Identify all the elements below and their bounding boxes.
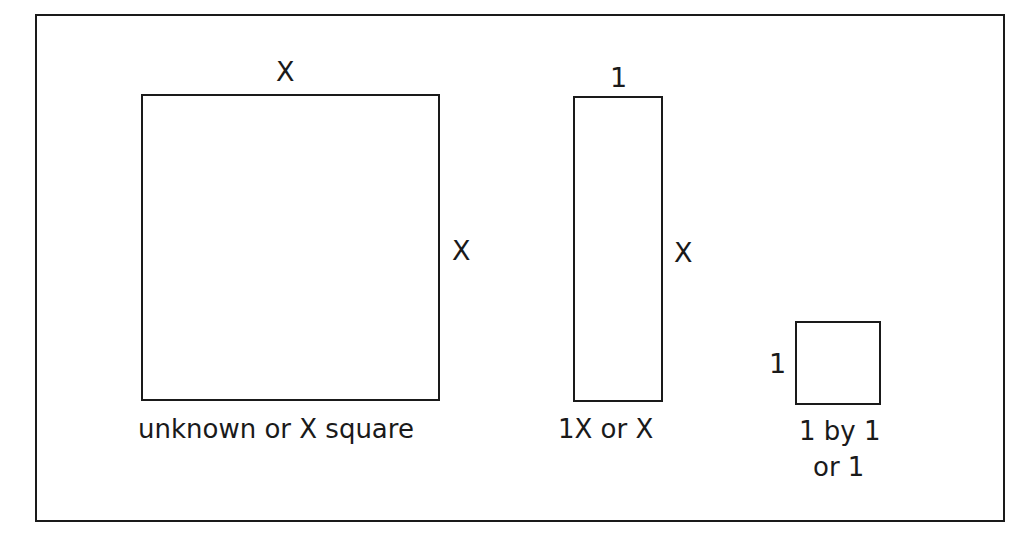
x-square-side-label: X — [452, 237, 471, 264]
x-rod-caption: 1X or X — [558, 414, 653, 445]
unit-square-side-label: 1 — [769, 350, 786, 377]
x-rod-tile — [573, 96, 663, 402]
unit-square-caption-line1: 1 by 1 — [799, 416, 881, 447]
x-square-tile — [141, 94, 440, 401]
x-square-caption: unknown or X square — [138, 414, 414, 445]
unit-square-tile — [795, 321, 881, 405]
unit-square-caption-line2: or 1 — [813, 452, 864, 483]
x-square-top-label: X — [276, 58, 295, 85]
x-rod-top-label: 1 — [610, 64, 627, 91]
x-rod-side-label: X — [674, 239, 693, 266]
